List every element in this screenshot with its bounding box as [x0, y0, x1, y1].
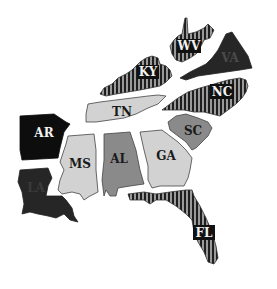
state-label-ga: GA: [156, 149, 176, 163]
state-wv[interactable]: WV: [170, 18, 214, 62]
state-label-fl: FL: [196, 226, 214, 240]
state-label-wv: WV: [177, 39, 201, 53]
state-ms[interactable]: MS: [58, 134, 98, 200]
state-label-sc: SC: [184, 124, 202, 138]
state-nc[interactable]: NC: [162, 78, 248, 116]
state-label-tn: TN: [112, 105, 132, 119]
state-label-al: AL: [109, 152, 128, 166]
state-tn[interactable]: TN: [86, 95, 166, 122]
state-ky[interactable]: KY: [100, 56, 172, 96]
state-label-va: VA: [220, 51, 239, 65]
state-label-nc: NC: [212, 85, 233, 99]
state-label-la: LA: [27, 181, 45, 195]
state-al[interactable]: AL: [102, 132, 144, 196]
state-fl[interactable]: FL: [128, 190, 218, 264]
state-label-ar: AR: [33, 126, 54, 140]
state-ar[interactable]: AR: [20, 114, 70, 160]
southeast-states-map: WV KY VA NC TN SC AR MS AL: [0, 0, 277, 289]
state-label-ky: KY: [139, 65, 158, 79]
state-label-ms: MS: [69, 157, 91, 171]
